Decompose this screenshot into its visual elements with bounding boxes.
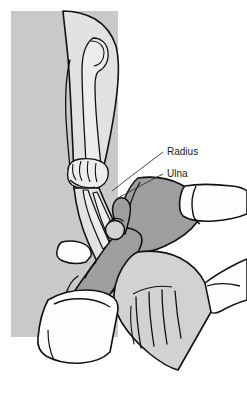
examiner-cuff-left (57, 241, 92, 263)
elbow-palpation-illustration: Radius Ulna (0, 0, 247, 393)
label-radius: Radius (167, 146, 198, 157)
radial-head (106, 221, 125, 240)
label-ulna: Ulna (167, 168, 188, 179)
examiner-cuff-right (180, 185, 247, 222)
patient-sleeve-cuff (38, 290, 118, 363)
